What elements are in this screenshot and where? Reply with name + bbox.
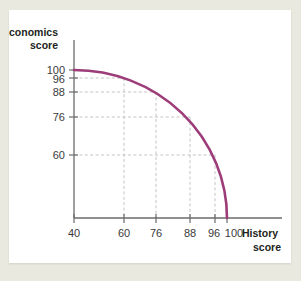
y-axis-title-line2: score <box>30 39 58 51</box>
x-tick-label-76: 76 <box>150 227 162 239</box>
y-tick-label-96: 96 <box>53 73 65 85</box>
x-tick-label-88: 88 <box>184 227 196 239</box>
figure-root: Economics score History score 100 96 88 … <box>0 0 301 281</box>
y-tick-label-76: 76 <box>53 111 65 123</box>
y-tick-label-60: 60 <box>53 149 65 161</box>
y-axis-title-line1: Economics <box>9 26 58 38</box>
y-tick-label-88: 88 <box>53 86 65 98</box>
chart-card: Economics score History score 100 96 88 … <box>9 10 291 263</box>
grid-vertical-group <box>124 78 215 218</box>
x-axis-title-line1: History <box>242 227 278 239</box>
grid-horizontal-group <box>74 78 215 155</box>
x-tick-label-96: 96 <box>208 227 220 239</box>
x-tick-label-60: 60 <box>118 227 130 239</box>
ppf-chart-svg: Economics score History score 100 96 88 … <box>9 10 291 263</box>
x-axis-title-line2: score <box>253 241 281 253</box>
x-tick-label-40: 40 <box>68 227 80 239</box>
x-tick-labels: 40 60 76 88 96 100 <box>68 227 243 239</box>
x-tick-label-100: 100 <box>225 227 243 239</box>
y-tick-labels: 100 96 88 76 60 <box>47 64 65 161</box>
